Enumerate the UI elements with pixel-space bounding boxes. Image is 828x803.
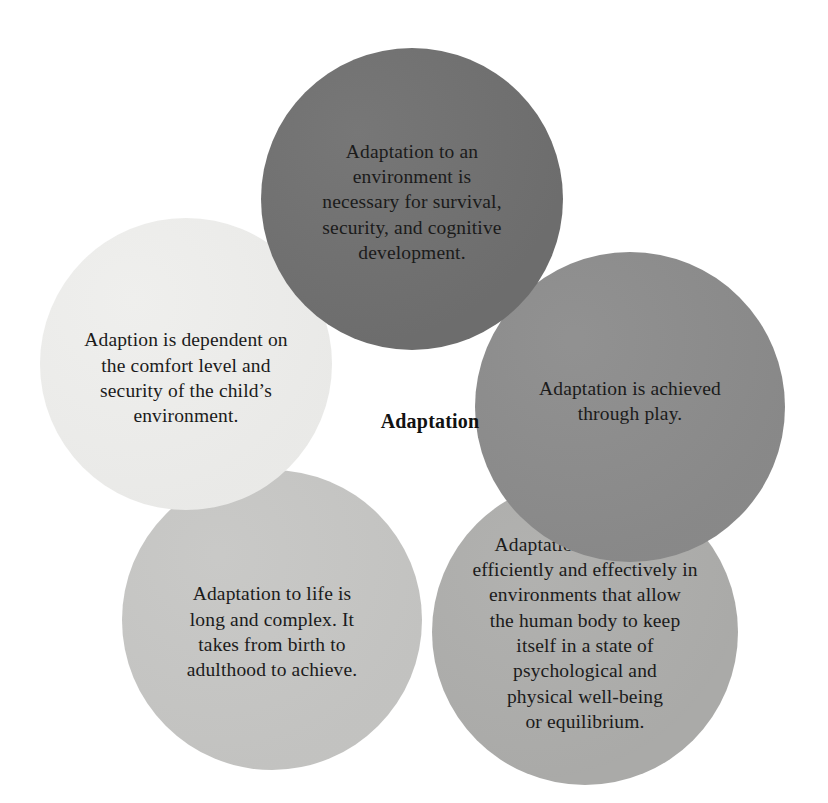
adaptation-petal-diagram: Adaptation to an environment is necessar… <box>0 0 828 803</box>
bubble-top[interactable]: Adaptation to an environment is necessar… <box>261 48 563 350</box>
bubble-bottom-left-text: Adaptation to life is long and complex. … <box>150 581 394 682</box>
bubble-bottom-right-text: Adaptation takes place efficiently and e… <box>450 532 720 735</box>
center-label: Adaptation <box>345 410 515 433</box>
bubble-bottom-left[interactable]: Adaptation to life is long and complex. … <box>122 470 422 770</box>
bubble-top-text: Adaptation to an environment is necessar… <box>294 139 531 266</box>
bubble-left-text: Adaption is dependent on the comfort lev… <box>55 327 317 428</box>
bubble-right-text: Adaptation is achieved through play. <box>499 376 761 427</box>
